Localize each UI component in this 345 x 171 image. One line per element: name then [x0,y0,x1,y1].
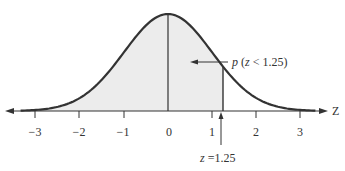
tick-label: 1 [209,125,215,139]
normal-distribution-diagram: Z −3 −2 −1 0 1 2 3 p (z < 1.25) z =1.25 [0,0,345,171]
z-value-annotation: z =1.25 [199,112,235,165]
axis-right-arrow-icon [319,108,328,114]
axis-label-z: Z [332,104,339,118]
tick-label: −2 [73,125,86,139]
arrow-up-icon [219,112,224,119]
tick-label: 0 [166,125,172,139]
axis-ticks: −3 −2 −1 0 1 2 3 [29,111,303,139]
probability-label: p (z < 1.25) [231,55,287,69]
tick-label: −1 [117,125,130,139]
tick-label: 2 [253,125,259,139]
tick-label: −3 [29,125,42,139]
axis-left-arrow-icon [5,108,14,114]
z-value-label: z =1.25 [199,151,235,165]
tick-label: 3 [297,125,303,139]
